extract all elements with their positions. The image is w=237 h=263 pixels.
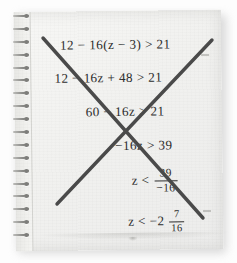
spiral-ring-hole bbox=[24, 27, 29, 31]
spiral-binding bbox=[11, 14, 33, 246]
spiral-ring bbox=[11, 156, 31, 161]
spiral-ring bbox=[11, 66, 31, 71]
spiral-ring bbox=[11, 104, 31, 109]
notebook-scene: 12 − 16(z − 3) > 21 12 − 16z + 48 > 21 6… bbox=[0, 0, 237, 263]
spiral-ring-hole bbox=[24, 207, 29, 211]
spiral-ring-hole bbox=[24, 143, 29, 147]
step-5-denominator: −16 bbox=[154, 182, 177, 194]
spiral-ring-hole bbox=[24, 233, 29, 237]
spiral-ring bbox=[11, 91, 31, 96]
step-5-fraction: 39 −16 bbox=[154, 167, 178, 194]
equation-step-3: 60 − 16z > 21 bbox=[86, 103, 165, 120]
spiral-ring-hole bbox=[24, 194, 29, 198]
step-5-lead: z < bbox=[132, 172, 150, 187]
spiral-ring bbox=[11, 233, 31, 238]
spiral-ring-hole bbox=[24, 91, 29, 95]
spiral-ring-hole bbox=[24, 117, 29, 121]
math-work: 12 − 16(z − 3) > 21 12 − 16z + 48 > 21 6… bbox=[30, 10, 224, 251]
spiral-ring-hole bbox=[24, 220, 29, 224]
spiral-ring bbox=[11, 130, 31, 135]
spiral-ring-hole bbox=[24, 40, 29, 44]
spiral-ring-hole bbox=[24, 156, 29, 160]
step-6-fraction: 7 16 bbox=[169, 209, 185, 234]
spiral-ring bbox=[11, 220, 31, 225]
spiral-ring bbox=[11, 117, 31, 122]
step-6-denominator: 16 bbox=[169, 223, 184, 234]
step-6-lead: z < −2 bbox=[128, 213, 165, 228]
equation-step-1: 12 − 16(z − 3) > 21 bbox=[60, 36, 171, 53]
spiral-ring bbox=[11, 143, 31, 148]
equation-step-2: 12 − 16z + 48 > 21 bbox=[54, 69, 162, 86]
spiral-ring bbox=[11, 14, 31, 19]
notebook-paper: 12 − 16(z − 3) > 21 12 − 16z + 48 > 21 6… bbox=[14, 10, 224, 252]
spiral-ring bbox=[11, 53, 31, 58]
spiral-ring bbox=[11, 40, 31, 45]
spiral-ring-hole bbox=[24, 14, 29, 18]
spiral-ring bbox=[11, 182, 31, 187]
step-6-numerator: 7 bbox=[169, 209, 184, 220]
spiral-ring-hole bbox=[24, 66, 29, 70]
spiral-ring bbox=[11, 78, 31, 83]
spiral-ring-hole bbox=[24, 53, 29, 57]
equation-step-4: −16z > 39 bbox=[115, 137, 172, 154]
spiral-ring-hole bbox=[24, 104, 29, 108]
equation-step-5: z < 39 −16 bbox=[131, 167, 178, 194]
spiral-ring bbox=[11, 207, 31, 212]
spiral-ring-hole bbox=[24, 78, 29, 82]
step-5-numerator: 39 bbox=[154, 167, 177, 179]
spiral-ring-hole bbox=[24, 130, 29, 134]
spiral-ring bbox=[11, 169, 31, 174]
spiral-ring bbox=[11, 194, 31, 199]
spiral-ring bbox=[11, 27, 31, 32]
spiral-ring-hole bbox=[24, 169, 29, 173]
spiral-ring-hole bbox=[24, 182, 29, 186]
equation-step-6: z < −2 7 16 bbox=[128, 209, 186, 234]
